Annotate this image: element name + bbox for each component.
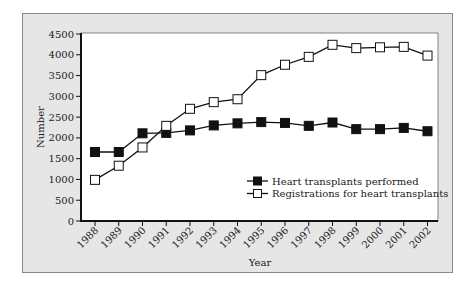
y-tick-label: 2000 [49,132,74,143]
filled-square-icon [254,177,262,185]
x-tick-label: 2001 [383,225,409,251]
data-point [233,119,242,128]
y-tick-label: 500 [55,195,74,206]
y-tick-label: 4000 [49,49,74,60]
x-tick-label: 1992 [170,225,196,251]
data-point [209,121,218,130]
data-point [114,148,123,157]
data-point [233,95,242,104]
data-point [399,123,408,132]
x-tick-label: 1988 [75,225,101,251]
data-point [304,52,313,61]
y-tick-label: 1000 [49,174,74,185]
data-point [423,51,432,60]
data-point [328,40,337,49]
x-tick-label: 1991 [146,225,172,251]
y-tick-label: 0 [68,216,74,227]
legend-label: Heart transplants performed [272,176,419,187]
x-tick-label: 1995 [241,225,267,251]
data-point [281,60,290,69]
x-tick-label: 1993 [193,225,219,251]
data-point [257,71,266,80]
x-axis: 1988198919901991199219931994199519961997… [75,221,438,250]
data-point [114,161,123,170]
y-axis: 050010001500200025003000350040004500 [49,29,81,227]
x-axis-title: Year [248,257,272,268]
y-tick-label: 2500 [49,112,74,123]
legend-label: Registrations for heart transplants [272,188,448,199]
data-point [186,126,195,135]
data-point [376,43,385,52]
y-tick-label: 1500 [49,153,74,164]
y-tick-label: 3500 [49,70,74,81]
data-point [376,125,385,134]
data-point [352,125,361,134]
data-point [399,42,408,51]
data-point [186,104,195,113]
data-point [352,44,361,53]
data-point [138,129,147,138]
data-point [304,121,313,130]
data-point [281,118,290,127]
data-point [423,127,432,136]
y-axis-title: Number [35,106,46,148]
x-tick-label: 1994 [217,225,243,251]
data-point [91,175,100,184]
open-square-icon [254,190,262,198]
data-point [209,98,218,107]
x-tick-label: 2000 [360,225,386,251]
x-tick-label: 1998 [312,225,338,251]
data-point [257,118,266,127]
x-tick-label: 2002 [407,225,433,251]
x-tick-label: 1997 [288,225,314,251]
x-tick-label: 1990 [122,225,148,251]
y-tick-label: 3000 [49,91,74,102]
data-point [328,118,337,127]
x-tick-label: 1996 [265,225,291,251]
data-point [162,121,171,130]
data-point [138,143,147,152]
legend: Heart transplants performedRegistrations… [247,176,448,200]
y-tick-label: 4500 [49,29,74,40]
x-tick-label: 1989 [98,225,124,251]
x-tick-label: 1999 [336,225,362,251]
data-point [91,148,100,157]
line-chart: 050010001500200025003000350040004500 198… [0,0,470,281]
